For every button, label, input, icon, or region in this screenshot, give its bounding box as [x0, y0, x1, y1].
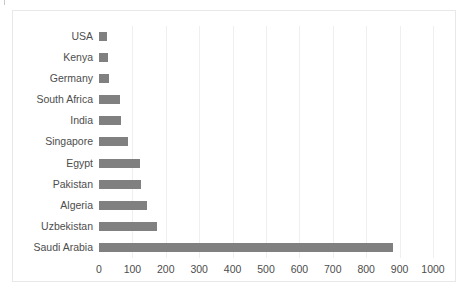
y-tick-label-egypt: Egypt [0, 153, 93, 174]
y-tick-label-singapore: Singapore [0, 131, 93, 152]
x-tick-label-800: 800 [357, 262, 375, 276]
bar-row [99, 174, 141, 195]
x-tick-label-700: 700 [324, 262, 342, 276]
y-tick-label-algeria: Algeria [0, 195, 93, 216]
bar-egypt [99, 159, 140, 168]
bar-kenya [99, 53, 108, 62]
bar-row [99, 26, 107, 47]
bar-pakistan [99, 180, 141, 189]
bar-row [99, 153, 140, 174]
bar-row [99, 89, 120, 110]
x-tick-label-300: 300 [190, 262, 208, 276]
y-tick-label-pakistan: Pakistan [0, 174, 93, 195]
bar-row [99, 216, 157, 237]
bar-usa [99, 32, 107, 41]
y-tick-label-uzbekistan: Uzbekistan [0, 216, 93, 237]
gridline-1000 [433, 26, 434, 258]
plot-area [99, 26, 433, 258]
x-tick-label-100: 100 [124, 262, 142, 276]
y-tick-label-germany: Germany [0, 68, 93, 89]
x-tick-label-500: 500 [257, 262, 275, 276]
x-tick-label-200: 200 [157, 262, 175, 276]
bar-algeria [99, 201, 147, 210]
x-tick-label-900: 900 [391, 262, 409, 276]
x-tick-label-0: 0 [96, 262, 102, 276]
x-tick-label-600: 600 [291, 262, 309, 276]
y-tick-label-usa: USA [0, 26, 93, 47]
bars [99, 26, 433, 258]
bar-south-africa [99, 95, 120, 104]
y-tick-label-india: India [0, 110, 93, 131]
y-tick-label-kenya: Kenya [0, 47, 93, 68]
bar-row [99, 195, 147, 216]
bar-chart-figure: USAKenyaGermanySouth AfricaIndiaSingapor… [0, 0, 472, 302]
bar-uzbekistan [99, 222, 157, 231]
bar-row [99, 237, 393, 258]
bar-row [99, 47, 108, 68]
x-tick-label-1000: 1000 [421, 262, 444, 276]
corner-tick-mark [4, 0, 5, 5]
bar-germany [99, 74, 109, 83]
y-tick-label-south-africa: South Africa [0, 89, 93, 110]
bar-row [99, 110, 121, 131]
bar-saudi-arabia [99, 243, 393, 252]
bar-singapore [99, 137, 128, 146]
bar-row [99, 131, 128, 152]
bar-row [99, 68, 109, 89]
y-tick-label-saudi-arabia: Saudi Arabia [0, 237, 93, 258]
x-tick-label-400: 400 [224, 262, 242, 276]
y-axis-category-labels: USAKenyaGermanySouth AfricaIndiaSingapor… [0, 26, 93, 258]
x-axis-tick-labels: 01002003004005006007008009001000 [99, 262, 433, 276]
bar-india [99, 116, 121, 125]
